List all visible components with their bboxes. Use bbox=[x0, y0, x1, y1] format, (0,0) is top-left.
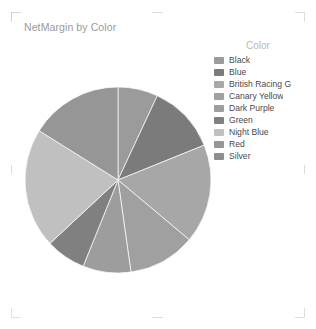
selection-handle-right-center[interactable] bbox=[304, 165, 305, 174]
legend-swatch-icon bbox=[214, 93, 224, 100]
legend-item[interactable]: Blue bbox=[214, 67, 316, 79]
selection-handle-top-right[interactable] bbox=[295, 12, 305, 22]
chart-title: NetMargin by Color bbox=[24, 21, 116, 33]
legend-swatch-icon bbox=[214, 69, 224, 76]
legend-item[interactable]: Black bbox=[214, 55, 316, 67]
legend-swatch-icon bbox=[214, 117, 224, 124]
legend-swatch-icon bbox=[214, 57, 224, 64]
legend-item-label: Red bbox=[229, 139, 245, 150]
legend[interactable]: Color BlackBlueBritish Racing GCanary Ye… bbox=[214, 40, 316, 163]
pie-plot-area[interactable] bbox=[25, 87, 211, 273]
selection-handle-left-center[interactable] bbox=[11, 165, 12, 174]
legend-title: Color bbox=[214, 40, 316, 51]
legend-swatch-icon bbox=[214, 105, 224, 112]
pie-chart-visual[interactable]: NetMargin by Color Color BlackBlueBritis… bbox=[0, 0, 316, 329]
legend-item-label: Green bbox=[229, 115, 253, 126]
pie-svg bbox=[25, 87, 211, 273]
legend-item[interactable]: British Racing G bbox=[214, 79, 316, 91]
selection-handle-bottom-center[interactable] bbox=[152, 317, 163, 318]
legend-swatch-icon bbox=[214, 129, 224, 136]
legend-item-label: Silver bbox=[229, 151, 251, 162]
selection-handle-top-left[interactable] bbox=[11, 12, 21, 22]
legend-item-list: BlackBlueBritish Racing GCanary YellowDa… bbox=[214, 55, 316, 162]
legend-swatch-icon bbox=[214, 81, 224, 88]
legend-item-label: Blue bbox=[229, 67, 246, 78]
legend-item[interactable]: Silver bbox=[214, 151, 316, 163]
legend-item[interactable]: Green bbox=[214, 115, 316, 127]
legend-item-label: Dark Purple bbox=[229, 103, 274, 114]
legend-swatch-icon bbox=[214, 141, 224, 148]
legend-item-label: Canary Yellow bbox=[229, 91, 283, 102]
legend-item-label: Black bbox=[229, 55, 250, 66]
legend-swatch-icon bbox=[214, 153, 224, 160]
legend-item[interactable]: Canary Yellow bbox=[214, 91, 316, 103]
selection-handle-bottom-left[interactable] bbox=[11, 308, 21, 318]
selection-handle-top-center[interactable] bbox=[152, 12, 163, 13]
legend-item[interactable]: Red bbox=[214, 139, 316, 151]
selection-handle-bottom-right[interactable] bbox=[295, 308, 305, 318]
legend-item-label: British Racing G bbox=[229, 79, 291, 90]
legend-item[interactable]: Night Blue bbox=[214, 127, 316, 139]
legend-item[interactable]: Dark Purple bbox=[214, 103, 316, 115]
legend-item-label: Night Blue bbox=[229, 127, 269, 138]
